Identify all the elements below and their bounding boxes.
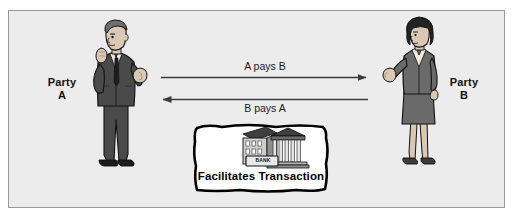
bank-callout-caption: Facilitates Transaction [186,170,336,182]
party-a-figure [94,20,147,166]
transaction-flow-diagram: Party A Party B A pays B B pays A BANK F… [0,0,519,221]
bank-sign-label: BANK [248,157,278,163]
flow-label-a-pays-b: A pays B [205,60,325,72]
party-b-label-line2: B [436,89,492,102]
party-b-label-line1: Party [436,76,492,89]
flow-label-b-pays-a: B pays A [205,102,325,114]
party-b-figure [383,17,438,164]
party-a-label: Party A [34,76,90,102]
party-a-label-line1: Party [34,76,90,89]
party-a-label-line2: A [34,89,90,102]
party-b-label: Party B [436,76,492,102]
